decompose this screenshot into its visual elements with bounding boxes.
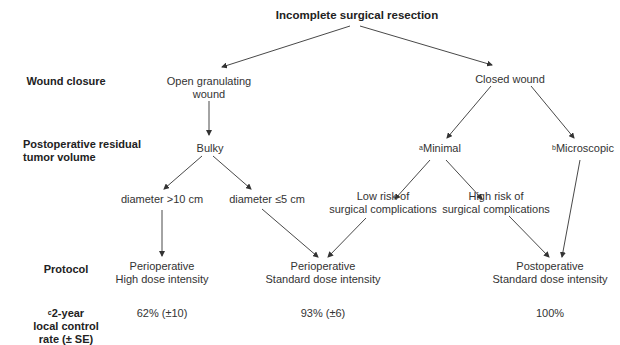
- local-control-label-line3: rate (± SE): [33, 333, 98, 345]
- node-protocol-periop-standard: Perioperative Standard dose intensity: [266, 260, 381, 286]
- node-diameter-gt10: diameter >10 cm: [121, 193, 203, 206]
- residual-volume-label-line1: Postoperative residual: [23, 138, 141, 151]
- local-control-label-line2: local control: [33, 320, 98, 333]
- wound-closure-label: Wound closure: [26, 75, 105, 87]
- row-label-local-control: c2-year local control rate (± SE): [33, 307, 98, 345]
- high-risk-line1: High risk of: [442, 190, 550, 203]
- protocol-periop-std-line1: Perioperative: [266, 260, 381, 273]
- microscopic-label: Microscopic: [556, 142, 614, 154]
- node-high-risk: High risk of surgical complications: [442, 190, 550, 216]
- node-bulky: Bulky: [197, 142, 224, 155]
- footnote-c: c: [48, 309, 52, 316]
- footnote-b: b: [552, 144, 556, 151]
- minimal-label: Minimal: [423, 142, 461, 154]
- open-wound-line2: wound: [167, 88, 251, 101]
- node-protocol-postop-standard: Postoperative Standard dose intensity: [493, 260, 608, 286]
- node-diameter-le5: diameter ≤5 cm: [229, 193, 305, 206]
- protocol-label: Protocol: [44, 263, 89, 275]
- outcome-high-dose: 62% (±10): [137, 307, 188, 320]
- outcome-periop-standard: 93% (±6): [301, 307, 346, 320]
- node-minimal: aMinimal: [419, 142, 461, 155]
- protocol-postop-std-line2: Standard dose intensity: [493, 273, 608, 286]
- node-microscopic: bMicroscopic: [552, 142, 614, 155]
- protocol-periop-std-line2: Standard dose intensity: [266, 273, 381, 286]
- diagram-title: Incomplete surgical resection: [276, 9, 438, 21]
- node-low-risk: Low risk of surgical complications: [329, 190, 437, 216]
- protocol-high-line1: Perioperative: [116, 260, 209, 273]
- row-label-protocol: Protocol: [44, 263, 89, 276]
- node-protocol-periop-high-dose: Perioperative High dose intensity: [116, 260, 209, 286]
- row-label-wound-closure: Wound closure: [26, 75, 105, 88]
- protocol-postop-std-line1: Postoperative: [493, 260, 608, 273]
- node-open-granulating-wound: Open granulating wound: [167, 75, 251, 101]
- row-label-residual-volume: Postoperative residual tumor volume: [23, 138, 141, 164]
- residual-volume-label-line2: tumor volume: [23, 151, 141, 164]
- low-risk-line1: Low risk of: [329, 190, 437, 203]
- node-closed-wound: Closed wound: [475, 73, 545, 86]
- protocol-high-line2: High dose intensity: [116, 273, 209, 286]
- high-risk-line2: surgical complications: [442, 203, 550, 216]
- outcome-postop-standard: 100%: [536, 307, 564, 320]
- footnote-a: a: [419, 144, 423, 151]
- flow-arrows: [0, 0, 620, 345]
- low-risk-line2: surgical complications: [329, 203, 437, 216]
- local-control-label-line1: 2-year: [52, 307, 84, 319]
- open-wound-line1: Open granulating: [167, 75, 251, 88]
